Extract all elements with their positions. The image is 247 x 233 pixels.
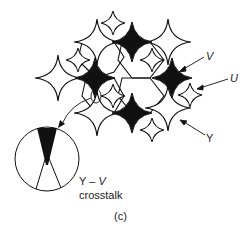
- crosstalk-star-lattice-diagram: [0, 0, 247, 233]
- crosstalk-label-dash: –: [89, 175, 95, 187]
- crosstalk-label-y: Y: [79, 175, 86, 187]
- panel-label: (c): [114, 211, 127, 222]
- crosstalk-label-line1: Y – V: [79, 176, 106, 187]
- magnify-arrowhead: [58, 120, 65, 128]
- crosstalk-label-v: V: [98, 175, 105, 187]
- crosstalk-label-line2: crosstalk: [79, 190, 122, 201]
- label-v: V: [206, 51, 213, 62]
- label-u: U: [230, 73, 238, 84]
- magnified-inset: [15, 127, 79, 191]
- label-y: Y: [206, 133, 213, 144]
